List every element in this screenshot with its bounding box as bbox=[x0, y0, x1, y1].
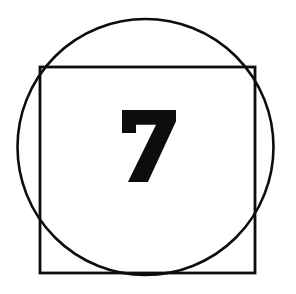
figure-canvas: 7 Numbered geometric figure bbox=[0, 0, 296, 294]
figure-svg bbox=[0, 0, 296, 294]
digit-seven-glyph bbox=[122, 110, 176, 182]
